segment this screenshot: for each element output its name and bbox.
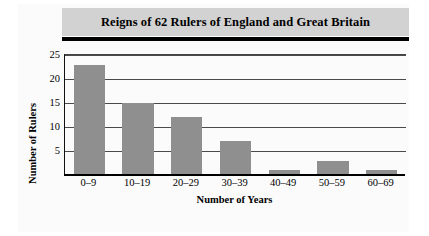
x-axis-label: Number of Years	[64, 194, 405, 205]
bar-slot	[357, 55, 406, 175]
x-axis-line	[64, 174, 405, 176]
x-axis-tick-label: 40–49	[259, 177, 308, 193]
x-axis-tick-label: 0–9	[64, 177, 113, 193]
title-divider	[62, 37, 409, 41]
bar-series	[65, 55, 406, 175]
x-axis-tick-label: 60–69	[356, 177, 405, 193]
bar	[122, 103, 153, 175]
y-axis-tick-label: 25	[50, 49, 61, 60]
bar-slot	[114, 55, 163, 175]
x-axis-tick-label: 10–19	[113, 177, 162, 193]
bar-slot	[260, 55, 309, 175]
bar	[74, 65, 105, 175]
y-axis-tick-label: 5	[55, 145, 60, 156]
x-axis-ticks: 0–910–1920–2930–3940–4950–5960–69	[64, 177, 405, 193]
y-axis-tick-label: 20	[50, 73, 61, 84]
bar	[317, 161, 348, 175]
x-axis-tick-label: 50–59	[308, 177, 357, 193]
x-axis-tick-label: 20–29	[161, 177, 210, 193]
y-axis-tick-label: 15	[50, 97, 61, 108]
y-axis-tick-label: 10	[50, 121, 61, 132]
bar-slot	[309, 55, 358, 175]
y-axis-ticks: 510152025	[40, 54, 62, 174]
bar-slot	[162, 55, 211, 175]
x-axis-tick-label: 30–39	[210, 177, 259, 193]
chart-card: Reigns of 62 Rulers of England and Great…	[18, 4, 409, 232]
chart-plot-area: Number of Rulers 510152025 0–910–1920–29…	[18, 44, 409, 232]
plot-frame	[64, 54, 406, 175]
page-title: Reigns of 62 Rulers of England and Great…	[101, 15, 370, 30]
chart-title-band: Reigns of 62 Rulers of England and Great…	[62, 8, 409, 36]
bar	[220, 141, 251, 175]
bar-slot	[65, 55, 114, 175]
y-axis-label-text: Number of Rulers	[27, 103, 38, 184]
bar	[171, 117, 202, 175]
y-axis-label: Number of Rulers	[24, 88, 40, 198]
bar-slot	[211, 55, 260, 175]
